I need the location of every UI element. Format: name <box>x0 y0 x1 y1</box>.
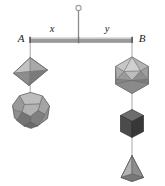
beam-highlight <box>30 37 132 39</box>
label-segment-x: x <box>49 23 55 34</box>
beam-shadow <box>30 41 132 42</box>
balance-mobile-diagram: A B x y <box>0 0 165 186</box>
solid-dodecahedron <box>13 93 50 129</box>
label-point-a: A <box>17 32 25 44</box>
label-point-b: B <box>139 32 146 44</box>
octahedron-face-bottom-left <box>14 72 31 86</box>
label-segment-y: y <box>104 23 110 34</box>
beam-fulcrum-mark <box>78 37 79 44</box>
fulcrum-support <box>76 5 81 40</box>
balance-beam <box>29 37 133 44</box>
diagram-canvas: A B x y <box>0 0 165 186</box>
left-arm-group <box>13 43 50 129</box>
solid-tetrahedron <box>121 156 144 182</box>
solid-hexahedron-cube <box>121 110 144 138</box>
solid-octahedron <box>14 58 48 86</box>
right-arm-group <box>116 43 149 182</box>
beam-body <box>30 39 132 41</box>
solid-icosahedron <box>116 57 149 94</box>
beam-right-cap <box>131 37 133 43</box>
beam-left-cap <box>29 37 31 43</box>
support-ring-icon <box>76 5 81 10</box>
